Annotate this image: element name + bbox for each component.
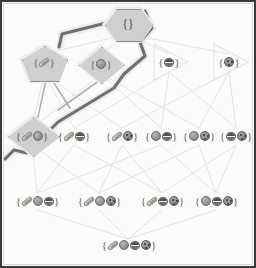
- lattice-diagram-canvas: {} { } { } { } { } {: [0, 0, 256, 268]
- outer-frame-border: [0, 0, 256, 268]
